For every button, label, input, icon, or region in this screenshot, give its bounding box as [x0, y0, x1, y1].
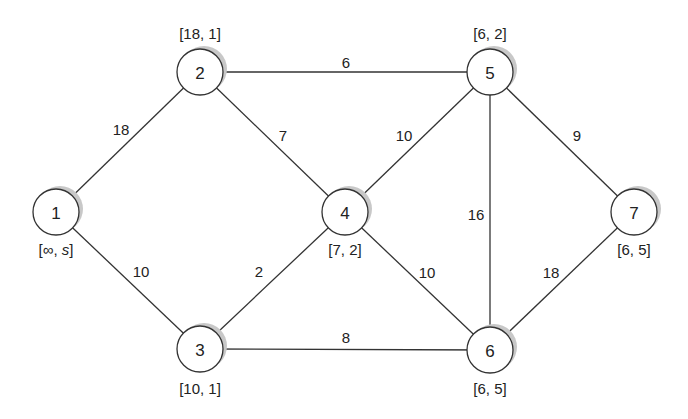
node-6: 6	[467, 324, 517, 373]
node-4: 4	[322, 186, 372, 235]
node-label-7: [6, 5]	[617, 241, 650, 258]
edge-3-4	[200, 212, 345, 349]
edge-3-6	[200, 349, 490, 350]
node-id-text: 6	[485, 342, 494, 361]
edge-6-7	[490, 212, 634, 350]
node-label-5: [6, 2]	[473, 25, 506, 42]
edge-weight-2-5: 6	[342, 54, 350, 71]
node-label-2: [18, 1]	[179, 25, 221, 42]
node-3: 3	[177, 323, 227, 372]
edge-weight-3-6: 8	[342, 329, 350, 346]
edge-5-7	[490, 72, 634, 212]
node-label-4: [7, 2]	[328, 241, 361, 258]
node-id-text: 5	[485, 64, 494, 83]
edge-weight-2-4: 7	[279, 127, 287, 144]
edge-weight-1-2: 18	[113, 121, 130, 138]
node-id-text: 1	[51, 204, 60, 223]
edge-weight-5-6: 16	[468, 206, 485, 223]
node-label-6: [6, 5]	[473, 380, 506, 397]
edge-1-3	[56, 212, 200, 349]
node-id-text: 4	[340, 204, 349, 223]
edge-weight-4-6: 10	[419, 264, 436, 281]
edge-weight-4-5: 10	[396, 127, 413, 144]
edge-2-4	[200, 72, 345, 212]
graph-diagram: 18106728101016918 1234567 [∞, s][18, 1][…	[0, 0, 688, 419]
node-label-1: [∞, s]	[39, 241, 74, 258]
node-7: 7	[611, 186, 661, 235]
edge-weight-1-3: 10	[133, 263, 150, 280]
edge-1-2	[56, 72, 200, 212]
edge-weight-5-7: 9	[573, 127, 581, 144]
node-2: 2	[177, 46, 227, 95]
node-id-text: 2	[195, 64, 204, 83]
node-id-text: 7	[629, 204, 638, 223]
edge-4-5	[345, 72, 490, 212]
node-id-text: 3	[195, 341, 204, 360]
node-label-3: [10, 1]	[179, 380, 221, 397]
edge-weight-3-4: 2	[255, 263, 263, 280]
edge-4-6	[345, 212, 490, 350]
node-1: 1	[33, 186, 83, 235]
node-5: 5	[467, 46, 517, 95]
nodes-layer: 1234567	[33, 46, 661, 373]
edge-weight-6-7: 18	[543, 264, 560, 281]
